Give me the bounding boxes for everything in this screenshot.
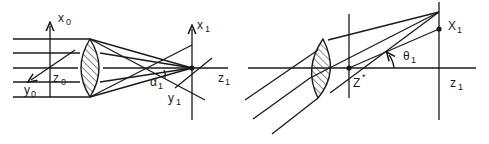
X1-dot (436, 26, 441, 31)
label-zstar: Z (353, 76, 360, 90)
label-z0-sub: 0 (61, 77, 66, 87)
label-y0-sub: 0 (31, 89, 36, 99)
label-alpha1: α (150, 75, 157, 89)
theta1-arc (389, 55, 394, 68)
label-zstar-sup: * (362, 72, 366, 82)
alpha1-arc (164, 70, 165, 78)
label-y1: y (168, 91, 174, 105)
lens-left (81, 39, 99, 97)
label-X1-sub: 1 (457, 25, 462, 35)
label-y1-sub: 1 (176, 97, 181, 107)
lens-optics-diagram: x 0 z 0 y 0 x 1 z 1 α 1 y 1 (0, 0, 489, 144)
label-x0: x (58, 11, 64, 25)
label-z1-left-sub: 1 (225, 77, 230, 87)
right-panel: X 1 θ 1 z 1 Z * (245, 2, 476, 134)
focal-point-dot (189, 65, 194, 70)
oblique-rays (245, 50, 318, 134)
label-alpha1-sub: 1 (158, 81, 163, 91)
label-X1: X (448, 19, 456, 33)
label-z0: z (53, 71, 59, 85)
label-x1-sub: 1 (205, 24, 210, 34)
zstar-dot (346, 65, 351, 70)
y1-axis (175, 58, 212, 88)
refracted-rays (310, 12, 439, 93)
label-x0-sub: 0 (66, 17, 71, 27)
label-z1-right-sub: 1 (458, 82, 463, 92)
converging-rays (90, 39, 205, 100)
label-z1-right: z (450, 76, 456, 90)
label-y0: y (24, 83, 30, 97)
label-theta1-sub: 1 (411, 55, 416, 65)
label-theta1: θ (403, 49, 410, 63)
label-x1: x (197, 18, 203, 32)
label-z1-left: z (218, 71, 224, 85)
left-panel: x 0 z 0 y 0 x 1 z 1 α 1 y 1 (13, 11, 230, 120)
